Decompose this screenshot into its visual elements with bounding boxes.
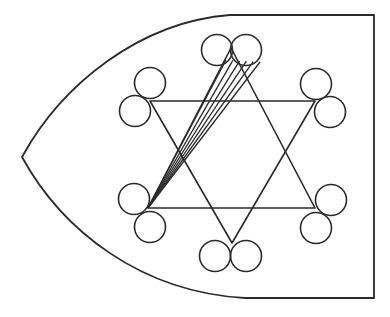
star-triangles <box>148 48 315 243</box>
upward-triangle <box>148 48 315 208</box>
fan-line-2 <box>148 60 233 208</box>
circle-upper-left-1 <box>135 68 166 99</box>
circle-lower-left-1 <box>119 184 150 215</box>
circle-lower-right-2 <box>301 213 332 244</box>
circle-top-1 <box>202 35 233 66</box>
circle-bottom-2 <box>231 241 262 272</box>
circle-bottom-1 <box>200 241 231 272</box>
fan-line-5 <box>148 62 253 208</box>
circle-top-2 <box>231 35 262 66</box>
circle-upper-left-2 <box>120 96 151 127</box>
downward-triangle <box>150 101 315 243</box>
hexagram-diagram <box>0 0 390 317</box>
circle-upper-right-2 <box>315 97 346 128</box>
bullet-outline <box>22 15 374 298</box>
circle-pairs <box>119 35 347 272</box>
circle-lower-right-1 <box>316 185 347 216</box>
fan-line-4 <box>148 61 246 208</box>
fan-line-3 <box>148 61 240 208</box>
fan-line-1 <box>148 60 226 208</box>
circle-upper-right-1 <box>301 69 332 100</box>
diagram-canvas <box>0 0 390 317</box>
circle-lower-left-2 <box>135 212 166 243</box>
